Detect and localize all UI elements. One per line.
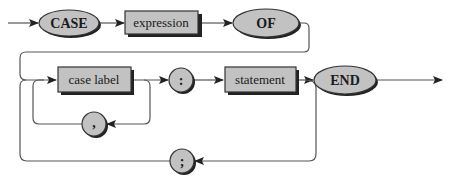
node-of-keyword: OF [233, 9, 301, 39]
expression-label: expression [133, 15, 189, 30]
colon-label: : [179, 73, 184, 88]
node-case-label: case label [58, 67, 134, 95]
node-expression: expression [125, 11, 202, 37]
node-comma: , [82, 112, 108, 138]
node-case-keyword: CASE [39, 10, 101, 38]
end-keyword-label: END [330, 73, 360, 88]
case-keyword-label: CASE [50, 16, 87, 31]
semicolon-label: ; [180, 154, 185, 169]
statement-label: statement [235, 72, 285, 87]
case-label-label: case label [69, 72, 120, 87]
node-colon: : [169, 68, 195, 94]
node-end-keyword: END [314, 66, 378, 96]
node-statement: statement [225, 67, 299, 95]
of-keyword-label: OF [256, 16, 275, 31]
node-semicolon: ; [170, 149, 196, 175]
case-syntax-diagram: CASE expression OF case label : statemen… [0, 0, 456, 187]
comma-label: , [92, 115, 96, 130]
